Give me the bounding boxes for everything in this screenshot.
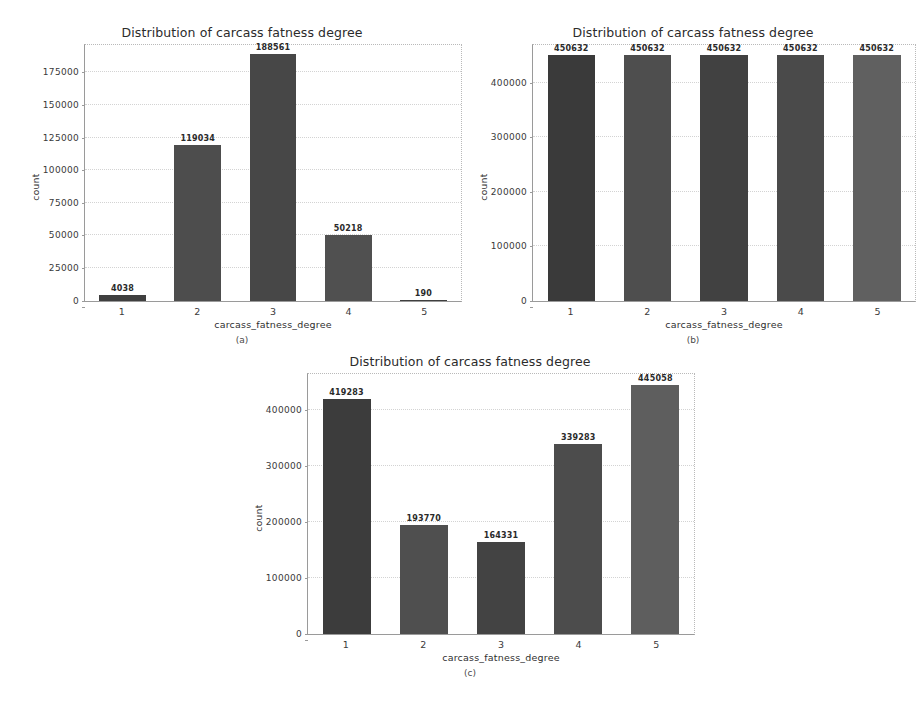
y-tick-label: 200000 <box>491 187 533 197</box>
bar-value-label: 450632 <box>860 44 895 53</box>
y-tick-label: 100000 <box>491 241 533 251</box>
bar-value-label: 193770 <box>406 514 441 523</box>
x-tick-label: 5 <box>839 302 916 318</box>
bar-slot: 450632 <box>839 45 915 301</box>
bar: 4038 <box>99 295 146 300</box>
y-tick-label: 25000 <box>49 263 85 273</box>
y-axis-label-c: count <box>254 504 264 531</box>
bar: 50218 <box>325 235 372 301</box>
x-tick-label: 4 <box>762 302 839 318</box>
bar-slot: 450632 <box>533 45 609 301</box>
bar-slot: 445058 <box>617 374 694 634</box>
bar-slot: 450632 <box>762 45 838 301</box>
bar-value-label: 450632 <box>554 44 589 53</box>
bar: 193770 <box>400 525 448 633</box>
y-axis-label-a: count <box>31 173 41 200</box>
bar-slot: 450632 <box>686 45 762 301</box>
plot-wrap-a: count 0250005000075000100000125000150000… <box>22 44 462 330</box>
y-tick-label: 75000 <box>49 198 85 208</box>
bar: 450632 <box>700 55 747 300</box>
bar-slot: 193770 <box>385 374 462 634</box>
x-tick-label: 2 <box>609 302 686 318</box>
x-tick-label: 3 <box>462 635 540 651</box>
bar: 339283 <box>554 444 602 634</box>
x-tick-label: 2 <box>160 302 236 318</box>
bar-value-label: 339283 <box>561 433 596 442</box>
bar-group-b: 450632450632450632450632450632 <box>533 45 915 301</box>
bar: 450632 <box>853 55 900 300</box>
plot-area-a: 0250005000075000100000125000150000175000… <box>84 44 462 302</box>
y-tick-label: 400000 <box>266 405 308 415</box>
bar-value-label: 419283 <box>329 388 364 397</box>
x-tick-label: 5 <box>386 302 462 318</box>
x-tick-label: 1 <box>532 302 609 318</box>
x-axis-label-a: carcass_fatness_degree <box>84 319 462 330</box>
bar-slot: 339283 <box>540 374 617 634</box>
bar-value-label: 445058 <box>638 374 673 383</box>
y-tick-label: 150000 <box>43 100 85 110</box>
x-tick-row-c: 12345 <box>307 635 695 651</box>
bar-value-label: 450632 <box>783 44 818 53</box>
bar-value-label: 164331 <box>484 531 519 540</box>
plot-wrap-c: count 0100000200000300000400000 41928319… <box>245 373 695 663</box>
bar-value-label: 450632 <box>707 44 742 53</box>
bar: 190 <box>400 300 447 301</box>
plot-wrap-b: count 0100000200000300000400000 45063245… <box>470 44 916 330</box>
x-tick-row-a: 12345 <box>84 302 462 318</box>
x-tick-label: 1 <box>307 635 385 651</box>
bar-group-a: 403811903418856150218190 <box>85 45 461 301</box>
figure-a: Distribution of carcass fatness degree c… <box>22 26 462 366</box>
bar-slot: 450632 <box>609 45 685 301</box>
x-tick-row-b: 12345 <box>532 302 916 318</box>
bar: 450632 <box>777 55 824 300</box>
plot-area-b: 0100000200000300000400000 45063245063245… <box>532 44 916 302</box>
bar: 419283 <box>323 399 371 633</box>
bar-value-label: 4038 <box>111 284 134 293</box>
y-tick-label: 50000 <box>49 230 85 240</box>
chart-title-c: Distribution of carcass fatness degree <box>245 355 695 369</box>
bar-value-label: 50218 <box>334 224 363 233</box>
figure-c: Distribution of carcass fatness degree c… <box>245 355 695 705</box>
bar-slot: 50218 <box>311 45 386 301</box>
x-tick-label: 1 <box>84 302 160 318</box>
subfigure-caption-a: (a) <box>22 335 462 345</box>
x-tick-label: 5 <box>617 635 695 651</box>
x-axis-label-c: carcass_fatness_degree <box>307 652 695 663</box>
bar: 445058 <box>631 385 679 634</box>
y-tick-label: 400000 <box>491 78 533 88</box>
plot-area-c: 0100000200000300000400000 41928319377016… <box>307 373 695 635</box>
x-axis-label-b: carcass_fatness_degree <box>532 319 916 330</box>
y-tick-label: 300000 <box>491 132 533 142</box>
bar: 450632 <box>548 55 595 300</box>
bar-group-c: 419283193770164331339283445058 <box>308 374 694 634</box>
x-tick-label: 4 <box>540 635 618 651</box>
bar: 450632 <box>624 55 671 300</box>
bar-value-label: 190 <box>415 289 432 298</box>
bar-value-label: 188561 <box>256 43 291 52</box>
bar-slot: 419283 <box>308 374 385 634</box>
figure-b: Distribution of carcass fatness degree c… <box>470 26 916 366</box>
x-tick-label: 3 <box>235 302 311 318</box>
y-tick-label: 300000 <box>266 461 308 471</box>
y-axis-label-b: count <box>479 173 489 200</box>
bar-value-label: 119034 <box>180 134 215 143</box>
y-tick-label: 125000 <box>43 133 85 143</box>
subfigure-caption-c: (c) <box>245 668 695 678</box>
y-tick-label: 100000 <box>266 573 308 583</box>
bar: 188561 <box>250 54 297 300</box>
y-tick-label: 175000 <box>43 67 85 77</box>
bar-value-label: 450632 <box>630 44 665 53</box>
x-tick-label: 4 <box>311 302 387 318</box>
y-tick-label: 200000 <box>266 517 308 527</box>
subfigure-caption-b: (b) <box>470 335 916 345</box>
bar-slot: 4038 <box>85 45 160 301</box>
bar: 164331 <box>477 542 525 634</box>
bar: 119034 <box>174 145 221 300</box>
x-tick-label: 2 <box>385 635 463 651</box>
bar-slot: 188561 <box>235 45 310 301</box>
figure-page: { "figures": [ { "key": "a", "caption": … <box>0 0 921 717</box>
bar-slot: 190 <box>386 45 461 301</box>
y-tick-label: 100000 <box>43 165 85 175</box>
x-tick-label: 3 <box>686 302 763 318</box>
chart-title-b: Distribution of carcass fatness degree <box>470 26 916 40</box>
